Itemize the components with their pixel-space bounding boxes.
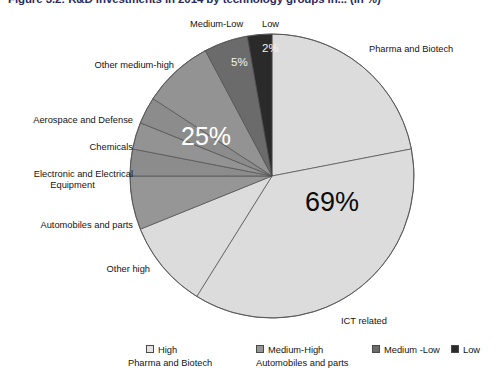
- data-label-high: 69%: [305, 189, 359, 216]
- label-pharma-and-biotech: Pharma and Biotech: [369, 44, 453, 55]
- pie-chart: [0, 0, 498, 390]
- legend-item-medium-high[interactable]: Medium-High: [256, 344, 323, 355]
- label-automobiles-and-parts: Automobiles and parts: [23, 220, 133, 231]
- pie-slice-group: [130, 34, 414, 318]
- legend-item-low[interactable]: Low: [451, 344, 480, 355]
- label-chemicals: Chemicals: [43, 142, 133, 153]
- label-low: Low: [262, 19, 279, 30]
- chart-legend: High Pharma and Biotech Medium-High Auto…: [0, 344, 498, 378]
- data-label-medium-low: 5%: [231, 57, 248, 69]
- label-other-medium-high: Other medium-high: [62, 60, 174, 71]
- label-aerospace-and-defense: Aerospace and Defense: [13, 115, 133, 126]
- data-label-medium-high: 25%: [181, 124, 231, 149]
- label-other-high: Other high: [50, 264, 150, 275]
- label-ict-related: ICT related: [341, 316, 387, 327]
- legend-swatch-medium-low: [372, 345, 380, 353]
- chart-canvas: Figure 3.2: R&D investments in 2014 by t…: [0, 0, 498, 390]
- label-medium-low: Medium-Low: [190, 19, 243, 30]
- legend-swatch-medium-high: [256, 345, 264, 353]
- legend-label-low: Low: [463, 345, 480, 355]
- label-electronic-and-electrical-equipment: Electronic and Electrical: [12, 169, 133, 180]
- legend-label-medium-high: Medium-High: [268, 345, 323, 355]
- legend-label-high: High: [158, 345, 177, 355]
- legend-swatch-low: [451, 345, 459, 353]
- legend-item-high[interactable]: High: [146, 344, 177, 355]
- legend-item-medium-low[interactable]: Medium -Low: [372, 344, 440, 355]
- legend-label-medium-low: Medium -Low: [384, 345, 440, 355]
- data-label-low: 2%: [262, 43, 279, 55]
- label-electronic-and-electrical-equipment-line2: Equipment: [12, 180, 133, 191]
- legend-swatch-high: [146, 345, 154, 353]
- legend-sub-medium-high: Automobiles and parts: [256, 358, 349, 368]
- legend-sub-high: Pharma and Biotech: [128, 358, 212, 368]
